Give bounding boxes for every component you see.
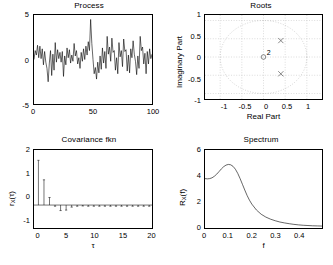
roots-axes: 2	[204, 14, 323, 100]
spectrum-xlabel: f	[204, 241, 323, 250]
process-title: Process	[22, 1, 156, 10]
process-xtick-100: 100	[147, 107, 160, 116]
process-line-series	[34, 15, 152, 104]
covariance-ylabel: rX(τ)	[7, 191, 16, 206]
covariance-xtick-15: 15	[119, 231, 127, 240]
spectrum-axes	[204, 149, 323, 229]
process-xtick-0: 0	[31, 107, 35, 116]
roots-title: Roots	[196, 1, 326, 10]
spectrum-ylabel-arg: (f)	[178, 189, 187, 197]
covariance-xtick-10: 10	[90, 231, 98, 240]
panel-process: Process 5 0 -5 0 50 100	[0, 0, 166, 132]
panel-spectrum: Spectrum 6 4 2 0 0 0.1 0.2 0.3 0.4 f RX(…	[166, 132, 333, 265]
process-ytick-0: 0	[9, 55, 29, 64]
spectrum-xtick-0: 0	[202, 231, 206, 240]
covariance-xtick-20: 20	[147, 231, 155, 240]
covariance-ylabel-main: r	[7, 203, 16, 206]
spectrum-ytick-0: 0	[184, 223, 201, 232]
roots-ytick-neg1: -1	[179, 96, 201, 105]
spectrum-xtick-04: 0.4	[294, 231, 304, 240]
covariance-ytick-1: 1	[12, 168, 30, 177]
roots-ylabel: Imaginary Part	[175, 36, 184, 88]
spectrum-ytick-6: 6	[184, 145, 201, 154]
roots-xtick-neg05: -0.5	[239, 102, 252, 111]
roots-ytick-0: 0	[182, 53, 201, 62]
covariance-ylabel-sub: X	[10, 199, 16, 203]
covariance-title: Covariance fkn	[22, 135, 156, 144]
covariance-stem-series	[34, 150, 152, 228]
spectrum-line-series	[205, 150, 322, 228]
spectrum-xtick-03: 0.3	[270, 231, 280, 240]
roots-ytick-1: 1	[182, 10, 201, 19]
panel-roots: Roots 2 1 0.5 0 -0.5 -1 -1 -0.5 0 0.5 1 …	[166, 0, 333, 132]
roots-plot-content: 2	[205, 15, 322, 99]
roots-xtick-1: 1	[306, 102, 310, 111]
covariance-ytick-neg1: -1	[9, 215, 30, 224]
panel-covariance: Covariance fkn 2 1 0 -1 0 5 10 15 20 τ r…	[0, 132, 166, 265]
spectrum-xtick-02: 0.2	[246, 231, 256, 240]
roots-xtick-neg1: -1	[221, 102, 228, 111]
covariance-xlabel: τ	[33, 241, 153, 250]
spectrum-title: Spectrum	[196, 135, 326, 144]
process-xtick-50: 50	[89, 107, 97, 116]
process-axes	[33, 14, 153, 105]
covariance-ylabel-arg: (τ)	[7, 191, 16, 200]
spectrum-ylabel-main: R	[178, 200, 187, 206]
process-ytick-5: 5	[9, 10, 29, 19]
spectrum-ylabel: RX(f)	[178, 189, 187, 206]
roots-xtick-05: 0.5	[282, 102, 292, 111]
covariance-ytick-2: 2	[12, 145, 30, 154]
roots-xlabel: Real Part	[204, 112, 323, 121]
covariance-xtick-5: 5	[64, 231, 68, 240]
covariance-axes	[33, 149, 153, 229]
spectrum-ytick-4: 4	[184, 171, 201, 180]
process-ytick-neg5: -5	[6, 101, 29, 110]
roots-xtick-0: 0	[264, 102, 268, 111]
matlab-figure-window: Process 5 0 -5 0 50 100 Roots 2 1 0.5	[0, 0, 333, 265]
spectrum-ylabel-sub: X	[181, 196, 187, 200]
spectrum-xtick-01: 0.1	[223, 231, 233, 240]
svg-text:2: 2	[267, 49, 271, 56]
covariance-xtick-0: 0	[35, 231, 39, 240]
